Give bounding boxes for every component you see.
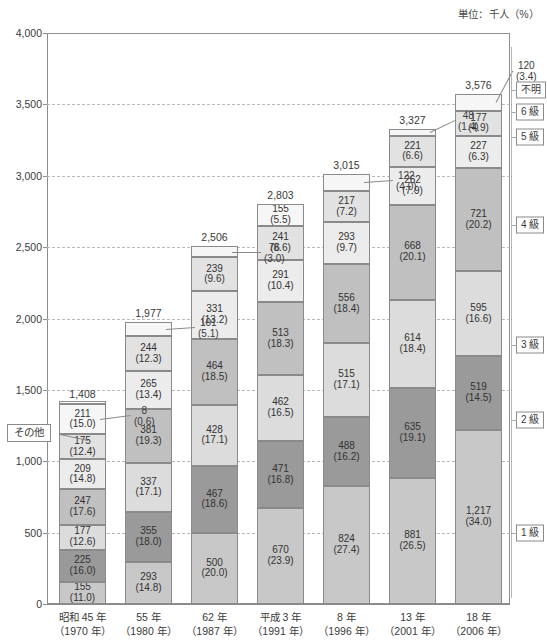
bar-segment-grade1[interactable]: 881(26.5) bbox=[389, 478, 436, 604]
segment-percent: (5.5) bbox=[270, 215, 291, 226]
bar-segment-grade4[interactable]: 556(18.4) bbox=[323, 264, 370, 343]
bar-segment-grade3[interactable]: 428(17.1) bbox=[191, 405, 238, 466]
bar-segment-grade5[interactable]: 291(10.4) bbox=[257, 260, 304, 302]
segment-percent: (9.7) bbox=[336, 243, 357, 254]
bar-segment-unknown[interactable]: 155(5.5) bbox=[257, 204, 304, 226]
segment-percent: (16.2) bbox=[333, 452, 359, 463]
bar-segment-grade2[interactable]: 355(18.0) bbox=[125, 512, 172, 563]
bar-segment-unknown[interactable] bbox=[323, 174, 370, 191]
bar-column[interactable]: 881(26.5)635(19.1)614(18.4)668(20.1)262(… bbox=[389, 33, 436, 604]
bar-segment-grade5[interactable]: 227(6.3) bbox=[455, 136, 502, 168]
bar-segment-grade1[interactable]: 155(11.0) bbox=[59, 582, 106, 604]
y-tick-mark-2000 bbox=[43, 319, 47, 320]
bar-segment-grade5[interactable]: 293(9.7) bbox=[323, 222, 370, 264]
legend-item-grade4[interactable]: 4 級 bbox=[516, 217, 544, 234]
bar-segment-grade4[interactable]: 721(20.2) bbox=[455, 168, 502, 271]
stacked-bar[interactable]: 500(20.0)467(18.6)428(17.1)464(18.5)331(… bbox=[191, 246, 238, 604]
bar-segment-grade6[interactable]: 239(9.6) bbox=[191, 257, 238, 291]
bar-segment-grade1[interactable]: 500(20.0) bbox=[191, 533, 238, 604]
bar-segment-grade1[interactable]: 1,217(34.0) bbox=[455, 430, 502, 604]
y-tick-mark-500 bbox=[43, 533, 47, 534]
y-axis-tick-4000: 4,000 bbox=[16, 27, 42, 39]
bar-segment-grade6[interactable]: 244(12.3) bbox=[125, 336, 172, 371]
stacked-bar[interactable]: 293(14.8)355(18.0)337(17.1)381(19.3)265(… bbox=[125, 322, 172, 604]
chart-plot-area: 05001,0001,5002,0002,5003,0003,5004,000 … bbox=[47, 33, 510, 604]
segment-percent: (16.5) bbox=[267, 408, 293, 419]
segment-percent: (11.0) bbox=[70, 593, 95, 604]
bar-segment-grade6[interactable]: 217(7.2) bbox=[323, 191, 370, 222]
bar-segment-unknown[interactable] bbox=[191, 246, 238, 257]
legend-connector bbox=[511, 137, 517, 138]
callout-percent: (0.6) bbox=[134, 416, 155, 427]
legend-item-grade2[interactable]: 2 級 bbox=[516, 412, 544, 429]
segment-percent: (9.6) bbox=[204, 274, 225, 285]
bar-segment-grade4[interactable]: 668(20.1) bbox=[389, 205, 436, 300]
bar-segment-unknown[interactable]: 211(15.0) bbox=[59, 404, 106, 434]
bar-segment-grade2[interactable]: 635(19.1) bbox=[389, 388, 436, 479]
y-tick-mark-1000 bbox=[43, 461, 47, 462]
legend-item-grade6[interactable]: 6 級 bbox=[516, 104, 544, 121]
segment-value: 488 bbox=[338, 441, 355, 452]
bar-segment-unknown[interactable] bbox=[125, 322, 172, 336]
bar-segment-grade2[interactable]: 471(16.8) bbox=[257, 441, 304, 508]
bar-segment-grade4[interactable]: 464(18.5) bbox=[191, 339, 238, 405]
segment-percent: (18.0) bbox=[135, 537, 161, 548]
stacked-bar[interactable]: 1,217(34.0)519(14.5)595(16.6)721(20.2)22… bbox=[455, 94, 502, 604]
legend-connector bbox=[511, 112, 517, 113]
bar-segment-grade1[interactable]: 824(27.4) bbox=[323, 486, 370, 604]
segment-percent: (6.6) bbox=[402, 151, 423, 162]
segment-percent: (10.4) bbox=[267, 281, 293, 292]
bar-segment-grade4[interactable]: 247(17.6) bbox=[59, 489, 106, 524]
stacked-bar[interactable]: 881(26.5)635(19.1)614(18.4)668(20.1)262(… bbox=[389, 129, 436, 604]
bar-segment-grade3[interactable]: 595(16.6) bbox=[455, 271, 502, 356]
bar-column[interactable]: 155(11.0)225(16.0)177(12.6)247(17.6)209(… bbox=[59, 33, 106, 604]
bar-segment-grade2[interactable]: 467(18.6) bbox=[191, 466, 238, 533]
stacked-bar[interactable]: 155(11.0)225(16.0)177(12.6)247(17.6)209(… bbox=[59, 403, 106, 604]
stacked-bar[interactable]: 824(27.4)488(16.2)515(17.1)556(18.4)293(… bbox=[323, 174, 370, 604]
legend-connector bbox=[511, 225, 517, 226]
bar-column[interactable]: 293(14.8)355(18.0)337(17.1)381(19.3)265(… bbox=[125, 33, 172, 604]
legend-item-grade5[interactable]: 5 級 bbox=[516, 129, 544, 146]
bar-segment-grade6[interactable]: 221(6.6) bbox=[389, 136, 436, 168]
bar-segment-grade1[interactable]: 293(14.8) bbox=[125, 562, 172, 604]
segment-percent: (17.1) bbox=[333, 380, 359, 391]
bar-segment-grade3[interactable]: 337(17.1) bbox=[125, 463, 172, 511]
y-axis-tick-3000: 3,000 bbox=[16, 170, 42, 182]
segment-value: 556 bbox=[338, 293, 355, 304]
segment-percent: (20.0) bbox=[201, 568, 227, 579]
bar-segment-other[interactable] bbox=[59, 401, 106, 404]
segment-percent: (6.3) bbox=[468, 152, 489, 163]
gridline-0 bbox=[47, 604, 510, 605]
segment-percent: (16.8) bbox=[267, 475, 293, 486]
callout-value: 122 bbox=[396, 170, 417, 181]
segment-percent: (18.5) bbox=[201, 372, 227, 383]
bar-segment-grade2[interactable]: 488(16.2) bbox=[323, 417, 370, 487]
bar-column[interactable]: 824(27.4)488(16.2)515(17.1)556(18.4)293(… bbox=[323, 33, 370, 604]
bar-segment-grade3[interactable]: 177(12.6) bbox=[59, 525, 106, 550]
legend-item-unknown[interactable]: 不明 bbox=[516, 82, 546, 99]
callout-percent: (3.0) bbox=[264, 253, 285, 264]
legend-item-grade3[interactable]: 3 級 bbox=[516, 337, 544, 354]
bar-segment-grade2[interactable]: 225(16.0) bbox=[59, 550, 106, 582]
value-callout: 48(1.4) bbox=[458, 110, 479, 132]
y-tick-mark-0 bbox=[43, 604, 47, 605]
segment-percent: (20.2) bbox=[465, 220, 491, 231]
segment-percent: (12.3) bbox=[135, 354, 161, 365]
bar-column[interactable]: 670(23.9)471(16.8)462(16.5)513(18.3)291(… bbox=[257, 33, 304, 604]
bar-segment-grade1[interactable]: 670(23.9) bbox=[257, 508, 304, 604]
bar-segment-grade4[interactable]: 513(18.3) bbox=[257, 302, 304, 375]
segment-percent: (27.4) bbox=[333, 545, 359, 556]
stacked-bar[interactable]: 670(23.9)471(16.8)462(16.5)513(18.3)291(… bbox=[257, 204, 304, 604]
bar-segment-grade3[interactable]: 462(16.5) bbox=[257, 375, 304, 441]
legend-connector bbox=[511, 420, 517, 421]
legend-item-grade1[interactable]: 1 級 bbox=[516, 525, 544, 542]
segment-percent: (17.1) bbox=[201, 435, 227, 446]
value-callout: 101(5.1) bbox=[198, 317, 219, 339]
bar-segment-grade5[interactable]: 265(13.4) bbox=[125, 371, 172, 409]
bar-segment-grade3[interactable]: 614(18.4) bbox=[389, 300, 436, 388]
bar-segment-grade3[interactable]: 515(17.1) bbox=[323, 343, 370, 417]
segment-percent: (23.9) bbox=[267, 556, 293, 567]
legend-connector bbox=[511, 90, 517, 91]
bar-segment-grade5[interactable]: 209(14.8) bbox=[59, 459, 106, 489]
bar-segment-grade2[interactable]: 519(14.5) bbox=[455, 356, 502, 430]
